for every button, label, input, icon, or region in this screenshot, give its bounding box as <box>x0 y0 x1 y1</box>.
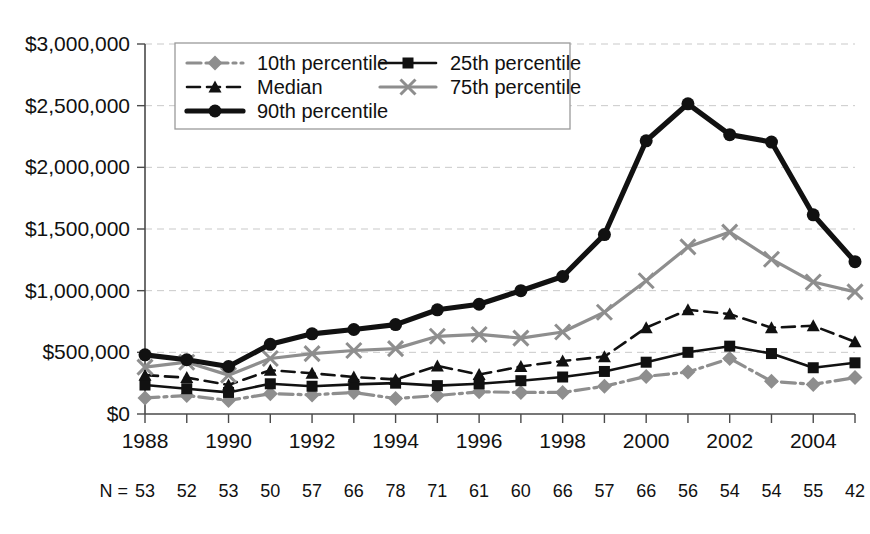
n-value: 54 <box>720 481 740 501</box>
data-point-marker-circle <box>209 105 222 118</box>
data-point-marker-square <box>432 380 443 391</box>
x-axis-label: 1992 <box>289 429 336 452</box>
data-point-marker-square <box>641 357 652 368</box>
x-axis-label: 2002 <box>706 429 753 452</box>
data-point-marker-circle <box>556 270 569 283</box>
n-value: 60 <box>511 481 531 501</box>
x-axis-label: 1994 <box>372 429 419 452</box>
data-point-marker-circle <box>264 338 277 351</box>
y-axis-label: $0 <box>107 402 130 425</box>
n-value: 66 <box>344 481 364 501</box>
y-axis-label: $2,500,000 <box>25 94 130 117</box>
legend-label: 25th percentile <box>450 52 581 74</box>
y-axis-label: $3,000,000 <box>25 32 130 55</box>
n-value: 56 <box>678 481 698 501</box>
n-value: 57 <box>302 481 322 501</box>
data-point-marker-circle <box>389 318 402 331</box>
data-point-marker-square <box>724 341 735 352</box>
n-value: 66 <box>636 481 656 501</box>
data-point-marker-square <box>682 347 693 358</box>
x-axis-label: 2000 <box>623 429 670 452</box>
data-point-marker-circle <box>640 134 653 147</box>
data-point-marker-square <box>850 357 861 368</box>
chart-container: $0$500,000$1,000,000$1,500,000$2,000,000… <box>0 0 870 534</box>
y-axis-label: $1,500,000 <box>25 217 130 240</box>
x-axis-label: 1998 <box>539 429 586 452</box>
data-point-marker-square <box>181 383 192 394</box>
n-value: 42 <box>845 481 865 501</box>
data-point-marker-square <box>515 375 526 386</box>
x-axis-label: 1988 <box>122 429 169 452</box>
n-row-label: N = <box>99 481 128 501</box>
chart-legend: 10th percentile25th percentileMedian75th… <box>175 43 581 129</box>
data-point-marker-square <box>599 366 610 377</box>
data-point-marker-circle <box>807 208 820 221</box>
legend-label: 90th percentile <box>257 100 388 122</box>
data-point-marker-circle <box>598 228 611 241</box>
y-axis-label: $2,000,000 <box>25 155 130 178</box>
data-point-marker-circle <box>514 284 527 297</box>
data-point-marker-square <box>140 380 151 391</box>
x-axis-label: 2004 <box>790 429 837 452</box>
data-point-marker-circle <box>139 348 152 361</box>
data-point-marker-circle <box>681 97 694 110</box>
data-point-marker-circle <box>431 303 444 316</box>
n-value: 52 <box>177 481 197 501</box>
data-point-marker-square <box>808 362 819 373</box>
n-value: 53 <box>135 481 155 501</box>
data-point-marker-circle <box>347 323 360 336</box>
n-value: 53 <box>219 481 239 501</box>
data-point-marker-square <box>265 378 276 389</box>
x-axis-label: 1990 <box>205 429 252 452</box>
y-axis-label: $500,000 <box>42 340 130 363</box>
x-axis-label: 1996 <box>456 429 503 452</box>
data-point-marker-square <box>557 372 568 383</box>
legend-label: Median <box>257 76 323 98</box>
n-value: 66 <box>553 481 573 501</box>
data-point-marker-circle <box>849 255 862 268</box>
data-point-marker-square <box>307 381 318 392</box>
n-value: 78 <box>386 481 406 501</box>
n-value: 57 <box>594 481 614 501</box>
percentile-line-chart: $0$500,000$1,000,000$1,500,000$2,000,000… <box>0 0 870 534</box>
data-point-marker-circle <box>723 128 736 141</box>
data-point-marker-circle <box>765 136 778 149</box>
data-point-marker-circle <box>306 327 319 340</box>
legend-label: 75th percentile <box>450 76 581 98</box>
n-value: 55 <box>803 481 823 501</box>
n-value: 50 <box>260 481 280 501</box>
n-value: 71 <box>427 481 447 501</box>
data-point-marker-square <box>766 348 777 359</box>
n-value: 54 <box>761 481 781 501</box>
y-axis-label: $1,000,000 <box>25 279 130 302</box>
data-point-marker-circle <box>473 298 486 311</box>
data-point-marker-square <box>403 58 414 69</box>
n-value: 61 <box>469 481 489 501</box>
legend-label: 10th percentile <box>257 52 388 74</box>
x-axis-tick-labels: 198819901992199419961998200020022004 <box>122 429 837 452</box>
data-point-marker-circle <box>222 360 235 373</box>
data-point-marker-circle <box>180 353 193 366</box>
